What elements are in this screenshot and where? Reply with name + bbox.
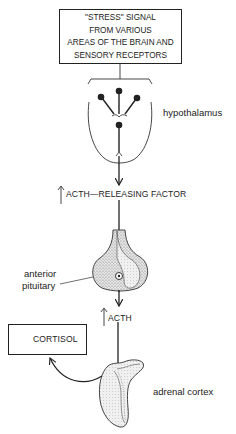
anterior-pituitary-drawing <box>93 230 148 291</box>
pituitary-leader-line <box>60 277 93 284</box>
hypothalamus-bracket <box>88 79 152 84</box>
stress-line-2: FROM VARIOUS <box>60 25 181 38</box>
cortisol-box: CORTISOL <box>8 324 87 355</box>
hypothalamic-neurons <box>98 88 139 156</box>
cortisol-label: CORTISOL <box>33 334 78 344</box>
stress-line-1: "STRESS" SIGNAL <box>60 12 181 25</box>
anterior-label: anterior <box>24 268 56 279</box>
acth-label: ACTH <box>108 313 132 323</box>
adrenal-cortex-drawing <box>99 360 143 427</box>
acth-releasing-factor-label: ACTH—RELEASING FACTOR <box>66 189 186 199</box>
diagram-drawing <box>0 0 236 434</box>
stress-line-4: SENSORY RECEPTORS <box>60 50 181 63</box>
stress-line-3: AREAS OF THE BRAIN AND <box>60 37 181 50</box>
adrenal-cortex-label: adrenal cortex <box>153 386 213 397</box>
stress-signal-box: "STRESS" SIGNAL FROM VARIOUS AREAS OF TH… <box>59 9 182 64</box>
pituitary-label: pituitary <box>22 280 55 291</box>
hypothalamus-label: hypothalamus <box>163 107 222 118</box>
arrow-to-cortisol <box>50 358 102 382</box>
